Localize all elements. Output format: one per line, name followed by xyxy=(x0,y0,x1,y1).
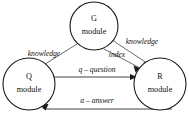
node-q-module[interactable]: Q module xyxy=(3,58,55,110)
node-r-label-line2: module xyxy=(148,85,173,94)
edge-label-knowledge-left: knowledge xyxy=(28,49,61,58)
diagram-canvas: G module Q module R module knowledge kno… xyxy=(0,0,189,118)
node-g-module[interactable]: G module xyxy=(70,2,118,50)
edge-label-question: q – question xyxy=(78,65,115,74)
edge-label-index: index xyxy=(109,50,126,59)
edge-label-answer: a – answer xyxy=(80,96,113,105)
edge-q-to-r-question xyxy=(54,74,137,80)
module-flow-diagram: G module Q module R module knowledge kno… xyxy=(0,0,189,118)
edge-label-knowledge-right: knowledge xyxy=(126,37,159,46)
node-g-label-line2: module xyxy=(82,27,107,36)
node-r-module[interactable]: R module xyxy=(134,58,186,110)
node-g-label-line1: G xyxy=(91,14,97,23)
node-r-label-line1: R xyxy=(157,72,163,81)
node-q-label-line2: module xyxy=(17,85,42,94)
node-q-label-line1: Q xyxy=(26,72,32,81)
